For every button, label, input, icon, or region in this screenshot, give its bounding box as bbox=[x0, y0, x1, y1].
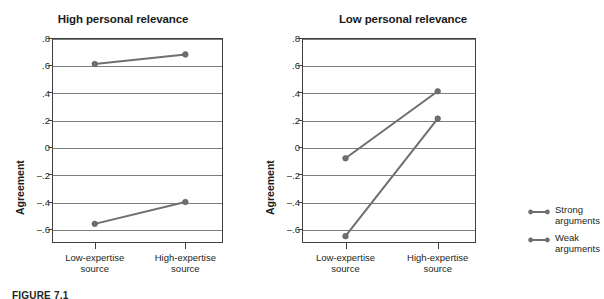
panel-title-high-relevance: High personal relevance bbox=[8, 13, 238, 25]
series-line-strong-arguments bbox=[346, 91, 438, 158]
y-axis-tick-label: .8 bbox=[274, 33, 300, 44]
legend-item-strong-arguments: Strong arguments bbox=[528, 205, 604, 226]
figure-caption: FIGURE 7.1 bbox=[12, 290, 68, 299]
data-point-marker bbox=[435, 116, 441, 122]
y-axis-tick-label: .4 bbox=[24, 87, 50, 98]
chart-legend: Strong arguments Weak arguments bbox=[528, 205, 604, 261]
figure-container: High personal relevance .8.6.4.20–.2–.4–… bbox=[0, 0, 604, 299]
y-axis-tick-label: .6 bbox=[24, 60, 50, 71]
y-axis-tick-label: –.6 bbox=[274, 224, 300, 235]
series-line-strong-arguments bbox=[95, 54, 186, 64]
x-axis-tick-label-line1: High-expertise bbox=[383, 252, 493, 263]
chart-panel-high-relevance: High personal relevance .8.6.4.20–.2–.4–… bbox=[0, 0, 290, 299]
y-axis-tick-label: .4 bbox=[274, 87, 300, 98]
y-axis-tick-label: .2 bbox=[274, 115, 300, 126]
legend-label-strong-line1: Strong bbox=[555, 205, 600, 216]
x-axis-tick-label-line2: source bbox=[383, 263, 493, 274]
legend-label-weak-line1: Weak bbox=[555, 233, 600, 244]
series-layer-high-relevance bbox=[52, 38, 223, 243]
y-axis-tick-label: .2 bbox=[24, 115, 50, 126]
y-axis-tick-label: 0 bbox=[274, 142, 300, 153]
legend-label-strong-arguments: Strong arguments bbox=[555, 205, 600, 226]
series-layer-low-relevance bbox=[302, 38, 476, 243]
legend-line-marker-icon bbox=[528, 206, 550, 218]
chart-panel-low-relevance: Low personal relevance .8.6.4.20–.2–.4–.… bbox=[248, 0, 538, 299]
y-axis-tick-label: .8 bbox=[24, 33, 50, 44]
x-axis-tick-label-line2: source bbox=[130, 263, 240, 274]
y-axis-tick-label: –.2 bbox=[24, 169, 50, 180]
data-point-marker bbox=[183, 52, 189, 58]
legend-label-weak-arguments: Weak arguments bbox=[555, 233, 600, 254]
y-axis-tick-label: –.4 bbox=[274, 197, 300, 208]
data-point-marker bbox=[92, 221, 98, 227]
x-axis-tick-mark bbox=[185, 243, 186, 249]
x-axis-tick-mark bbox=[346, 243, 347, 249]
data-point-marker bbox=[435, 89, 441, 95]
data-point-marker bbox=[92, 61, 98, 67]
x-axis-tick-label: High-expertisesource bbox=[130, 252, 240, 274]
x-axis-tick-label: High-expertisesource bbox=[383, 252, 493, 274]
y-axis-tick-label: –.2 bbox=[274, 169, 300, 180]
legend-line-marker-icon bbox=[528, 234, 550, 246]
y-axis-title-low: Agreement bbox=[264, 160, 276, 215]
panel-title-low-relevance: Low personal relevance bbox=[288, 13, 518, 25]
data-point-marker bbox=[343, 155, 349, 161]
data-point-marker bbox=[183, 199, 189, 205]
series-line-weak-arguments bbox=[95, 202, 186, 224]
legend-item-weak-arguments: Weak arguments bbox=[528, 233, 604, 254]
x-axis-tick-mark bbox=[438, 243, 439, 249]
x-axis-tick-mark bbox=[95, 243, 96, 249]
y-axis-title-high: Agreement bbox=[14, 160, 26, 215]
y-axis-tick-label: –.4 bbox=[24, 197, 50, 208]
y-axis-tick-label: 0 bbox=[24, 142, 50, 153]
y-axis-tick-label: .6 bbox=[274, 60, 300, 71]
x-axis-tick-label-line1: High-expertise bbox=[130, 252, 240, 263]
series-line-weak-arguments bbox=[346, 119, 438, 237]
legend-label-weak-line2: arguments bbox=[555, 244, 600, 255]
data-point-marker bbox=[343, 233, 349, 239]
legend-label-strong-line2: arguments bbox=[555, 216, 600, 227]
y-axis-tick-label: –.6 bbox=[24, 224, 50, 235]
